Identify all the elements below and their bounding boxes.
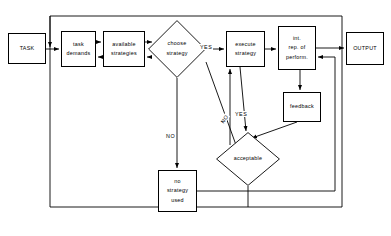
edge-label-yes-acceptable-execute: YES bbox=[234, 111, 248, 117]
node-task-demands[interactable]: task demands bbox=[61, 31, 96, 67]
node-execute-strategy-label: execute strategy bbox=[235, 40, 256, 59]
node-acceptable[interactable]: acceptable bbox=[216, 132, 280, 186]
flowchart-canvas: TASK task demands available strategies c… bbox=[0, 0, 391, 236]
node-feedback-label: feedback bbox=[290, 102, 314, 111]
edge-label-no-choose-nostrategy: NO bbox=[165, 133, 176, 139]
edge-label-no-choose-nostrategy-text: NO bbox=[166, 133, 175, 139]
node-no-strategy-used-label: no strategy used bbox=[167, 177, 188, 205]
node-available-strategies-label: available strategies bbox=[111, 40, 137, 59]
node-task[interactable]: TASK bbox=[8, 33, 46, 64]
node-task-label: TASK bbox=[20, 44, 35, 53]
node-choose-strategy[interactable]: choose strategy bbox=[148, 20, 206, 78]
edge-execute-to-acceptable bbox=[240, 67, 246, 131]
node-execute-strategy[interactable]: execute strategy bbox=[226, 31, 265, 67]
edge-label-yes-acceptable-execute-text: YES bbox=[235, 111, 247, 117]
choose-strategy-shape bbox=[148, 20, 206, 78]
node-output-label: OUTPUT bbox=[353, 44, 377, 53]
node-available-strategies[interactable]: available strategies bbox=[103, 31, 145, 67]
node-no-strategy-used[interactable]: no strategy used bbox=[158, 170, 197, 212]
node-int-rep-of-perform-label: int. rep. of perform. bbox=[286, 34, 308, 62]
edge-label-yes-choose-execute-text: YES bbox=[200, 44, 212, 50]
node-feedback[interactable]: feedback bbox=[283, 92, 321, 122]
node-int-rep-of-perform[interactable]: int. rep. of perform. bbox=[278, 26, 316, 70]
node-task-demands-label: task demands bbox=[67, 40, 91, 59]
node-output[interactable]: OUTPUT bbox=[346, 32, 384, 65]
edge-label-yes-choose-execute: YES bbox=[199, 44, 213, 50]
acceptable-shape bbox=[216, 132, 280, 186]
